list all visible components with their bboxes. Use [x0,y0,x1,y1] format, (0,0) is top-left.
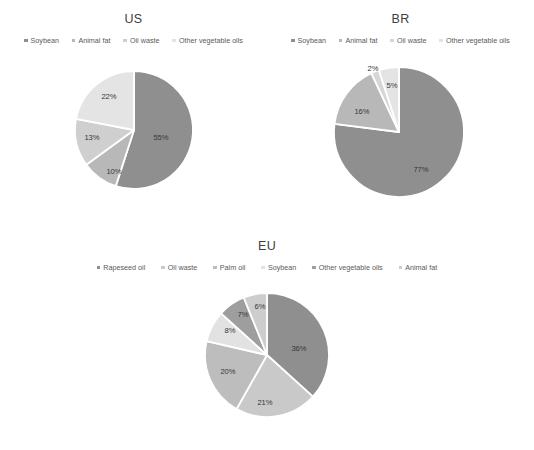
legend-swatch-icon [390,39,394,43]
pie-chart-eu: 36%21%20%8%7%6% [177,283,357,433]
legend-swatch-icon [72,39,76,43]
legend-swatch-icon [312,266,316,270]
legend-item[interactable]: Oil waste [123,37,159,44]
panel-eu: EU Rapeseed oilOil wastePalm oilSoybeanO… [0,232,534,450]
pie-slice-label: 55% [153,133,168,142]
legend-item-label: Animal fat [345,37,377,44]
legend-item-label: Soybean [268,264,296,271]
legend-item[interactable]: Animal fat [339,37,377,44]
legend-swatch-icon [291,39,295,43]
legend-swatch-icon [161,266,165,270]
legend-item[interactable]: Other vegetable oils [172,37,242,44]
legend-item[interactable]: Soybean [24,37,59,44]
legend-item[interactable]: Soybean [291,37,326,44]
pie-wrap-br: 77%16%2%5% [267,56,534,211]
legend-swatch-icon [123,39,127,43]
legend-item[interactable]: Oil waste [390,37,426,44]
legend-swatch-icon [261,266,265,270]
legend-item-label: Palm oil [220,264,246,271]
legend-swatch-icon [24,39,28,43]
pie-wrap-us: 55%10%13%22% [0,58,267,208]
legend-item-label: Rapeseed oil [103,264,145,271]
legend-item-label: Oil waste [397,37,427,44]
legend-item[interactable]: Oil waste [161,264,197,271]
legend-item-label: Soybean [298,37,326,44]
chart-title-eu: EU [0,239,534,253]
legend-item[interactable]: Other vegetable oils [439,37,509,44]
pie-slice-label: 16% [354,107,369,116]
legend-us: SoybeanAnimal fatOil wasteOther vegetabl… [0,37,267,44]
pie-slice-label: 20% [220,367,235,376]
pie-wrap-eu: 36%21%20%8%7%6% [0,283,534,433]
pie-slice-label: 2% [367,64,378,73]
legend-item-label: Other vegetable oils [446,37,510,44]
legend-item-label: Oil waste [130,37,160,44]
legend-item[interactable]: Palm oil [213,264,245,271]
legend-item-label: Soybean [31,37,59,44]
legend-swatch-icon [172,39,176,43]
corner-artifact-mid [524,262,526,268]
legend-item-label: Oil waste [168,264,198,271]
legend-item-label: Other vegetable oils [319,264,383,271]
pie-chart-br: 77%16%2%5% [311,56,491,211]
legend-swatch-icon [97,266,101,270]
pie-slice-label: 10% [106,167,121,176]
legend-eu: Rapeseed oilOil wastePalm oilSoybeanOthe… [0,264,534,271]
legend-item[interactable]: Other vegetable oils [312,264,382,271]
legend-item[interactable]: Soybean [261,264,296,271]
pie-slice-label: 13% [84,133,99,142]
pie-slice-label: 8% [225,326,236,335]
pie-slice-label: 36% [291,344,306,353]
pie-slice-label: 7% [238,310,249,319]
pie-chart-us: 55%10%13%22% [54,58,214,208]
legend-swatch-icon [399,266,403,270]
legend-item-label: Animal fat [78,37,110,44]
pie-slice-label: 5% [386,81,397,90]
legend-swatch-icon [213,266,217,270]
corner-artifact-top [526,3,528,9]
legend-item-label: Animal fat [405,264,437,271]
legend-item[interactable]: Animal fat [72,37,110,44]
corner-artifact-bottom [522,430,524,436]
legend-item[interactable]: Animal fat [399,264,437,271]
legend-swatch-icon [339,39,343,43]
pie-slice-label: 22% [101,92,116,101]
legend-item[interactable]: Rapeseed oil [97,264,145,271]
panel-us: US SoybeanAnimal fatOil wasteOther veget… [0,0,267,228]
pie-slice-label: 21% [257,398,272,407]
legend-swatch-icon [439,39,443,43]
panel-br: BR SoybeanAnimal fatOil wasteOther veget… [267,0,534,228]
chart-title-br: BR [267,12,534,26]
chart-title-us: US [0,12,267,26]
pie-slice-label: 6% [255,302,266,311]
pie-slice-label: 77% [413,165,428,174]
pie-chart-figure: US SoybeanAnimal fatOil wasteOther veget… [0,0,534,450]
legend-item-label: Other vegetable oils [179,37,243,44]
legend-br: SoybeanAnimal fatOil wasteOther vegetabl… [267,37,534,44]
